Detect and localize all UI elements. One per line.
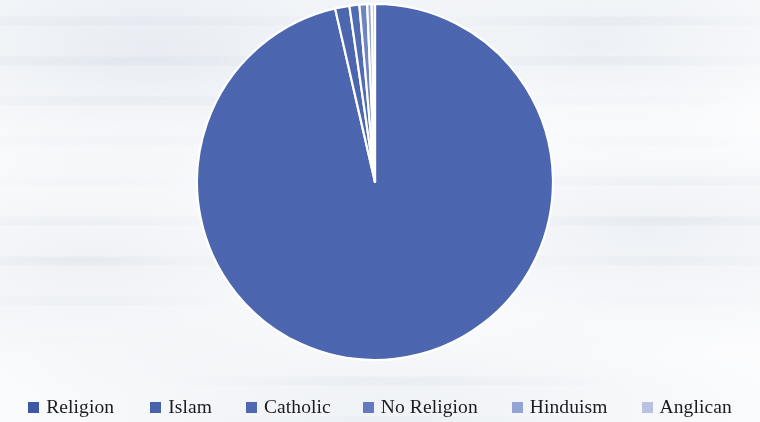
legend-label: Hinduism — [530, 397, 608, 417]
legend-swatch-icon — [246, 402, 257, 413]
chart-legend: ReligionIslamCatholicNo ReligionHinduism… — [0, 392, 760, 422]
legend-label: Islam — [168, 397, 212, 417]
pie-chart — [0, 0, 760, 392]
legend-swatch-icon — [150, 402, 161, 413]
legend-label: Catholic — [264, 397, 331, 417]
legend-label: Religion — [46, 397, 114, 417]
pie-chart-svg — [0, 0, 760, 392]
legend-item-religion[interactable]: Religion — [28, 397, 114, 417]
legend-item-islam[interactable]: Islam — [150, 397, 212, 417]
legend-item-anglican[interactable]: Anglican — [642, 397, 732, 417]
legend-label: Anglican — [660, 397, 732, 417]
legend-swatch-icon — [512, 402, 523, 413]
legend-swatch-icon — [363, 402, 374, 413]
legend-label: No Religion — [381, 397, 478, 417]
pie-slice-group — [197, 4, 553, 360]
legend-swatch-icon — [28, 402, 39, 413]
legend-item-catholic[interactable]: Catholic — [246, 397, 331, 417]
legend-swatch-icon — [642, 402, 653, 413]
legend-item-hinduism[interactable]: Hinduism — [512, 397, 608, 417]
legend-item-no-religion[interactable]: No Religion — [363, 397, 478, 417]
